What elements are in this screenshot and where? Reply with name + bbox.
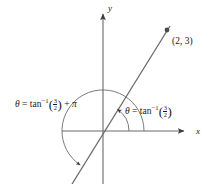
close-paren-right: ) (168, 104, 172, 119)
theta-symbol-right: θ (125, 106, 130, 116)
plus-sign-left: + (64, 99, 69, 109)
fraction-numerator-left: 3 (53, 98, 57, 105)
fraction-left: 32 (53, 98, 57, 112)
inverse-exponent-right: −1 (151, 104, 158, 111)
theta-principal-label: θ = tan−1(32) (125, 105, 172, 119)
equals-sign-right: = (132, 106, 137, 116)
theta-symbol-left: θ (15, 99, 20, 109)
fraction-right: 32 (163, 105, 167, 119)
equals-sign-left: = (22, 99, 27, 109)
x-axis-label: x (195, 126, 200, 136)
diagram-canvas: y x (2, 3) (0, 0, 211, 184)
fraction-denominator-left: 2 (53, 104, 57, 112)
fraction-numerator-right: 3 (163, 105, 167, 112)
theta-plus-pi-label: θ = tan−1(32) + π (15, 98, 77, 112)
fraction-denominator-right: 2 (163, 111, 167, 119)
y-axis-label: y (107, 3, 112, 13)
angle-diagram-figure: y x (2, 3) θ = tan−1(32) + π θ = tan−1(3… (0, 0, 211, 184)
plotted-point-marker (165, 28, 170, 33)
inverse-exponent-left: −1 (41, 97, 48, 104)
tan-function-right: tan (140, 106, 152, 116)
close-paren-left: ) (58, 97, 62, 112)
tan-function-left: tan (30, 99, 42, 109)
plotted-point-label: (2, 3) (172, 36, 193, 47)
pi-symbol-left: π (72, 99, 77, 109)
